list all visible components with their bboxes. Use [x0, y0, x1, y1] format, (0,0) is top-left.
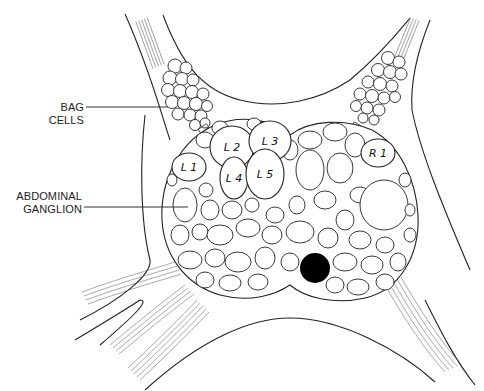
neuron-label: L 5	[257, 168, 274, 181]
neuron-label: L 3	[262, 135, 279, 148]
neuron-l5: L 5	[246, 149, 284, 199]
neuron-label: R 1	[369, 147, 387, 160]
bag-cell-cluster-left	[162, 59, 213, 131]
bag-cell-cluster-right	[351, 52, 408, 126]
dark-neuron	[300, 253, 330, 283]
abdominal-ganglion-line2: GANGLION	[10, 203, 82, 216]
abdominal-ganglion-label: ABDOMINAL GANGLION	[10, 190, 82, 216]
neuron-label: L 1	[181, 161, 198, 174]
neuron-l1: L 1	[172, 153, 206, 181]
neuron-l4: L 4	[220, 157, 248, 199]
abdominal-ganglion-line1: ABDOMINAL	[10, 190, 82, 203]
right-lower-connective	[385, 277, 461, 372]
bag-cells-label: BAG CELLS	[22, 101, 84, 127]
neuron-label: L 2	[224, 141, 241, 154]
neuron-label: L 4	[226, 172, 243, 185]
neuron-r1: R 1	[361, 139, 395, 167]
